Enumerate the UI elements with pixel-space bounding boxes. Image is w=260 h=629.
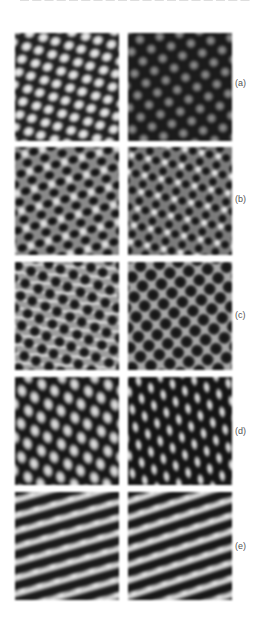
lattice-pattern [15, 262, 119, 370]
panel-b-left [15, 147, 119, 255]
panel-c-right [128, 262, 232, 370]
row-label-c: (c) [235, 310, 246, 320]
lattice-pattern [15, 147, 119, 255]
panel-c-left [15, 262, 119, 370]
lattice-pattern [128, 262, 232, 370]
lattice-pattern [15, 492, 119, 600]
lattice-pattern [128, 492, 232, 600]
lattice-pattern [128, 147, 232, 255]
lattice-pattern [128, 33, 232, 141]
panel-d-left [15, 377, 119, 485]
panel-a-right [128, 33, 232, 141]
row-label-d: (d) [235, 426, 246, 436]
panel-e-right [128, 492, 232, 600]
row-label-b: (b) [235, 194, 246, 204]
row-label-a: (a) [235, 78, 246, 88]
lattice-pattern [15, 377, 119, 485]
panel-a-left [15, 33, 119, 141]
lattice-pattern [15, 33, 119, 141]
panel-d-right [128, 377, 232, 485]
panel-b-right [128, 147, 232, 255]
lattice-image-figure: (a) (b) (c) (d) (e) [0, 0, 260, 629]
lattice-pattern [128, 377, 232, 485]
row-label-e: (e) [235, 541, 246, 551]
panel-e-left [15, 492, 119, 600]
